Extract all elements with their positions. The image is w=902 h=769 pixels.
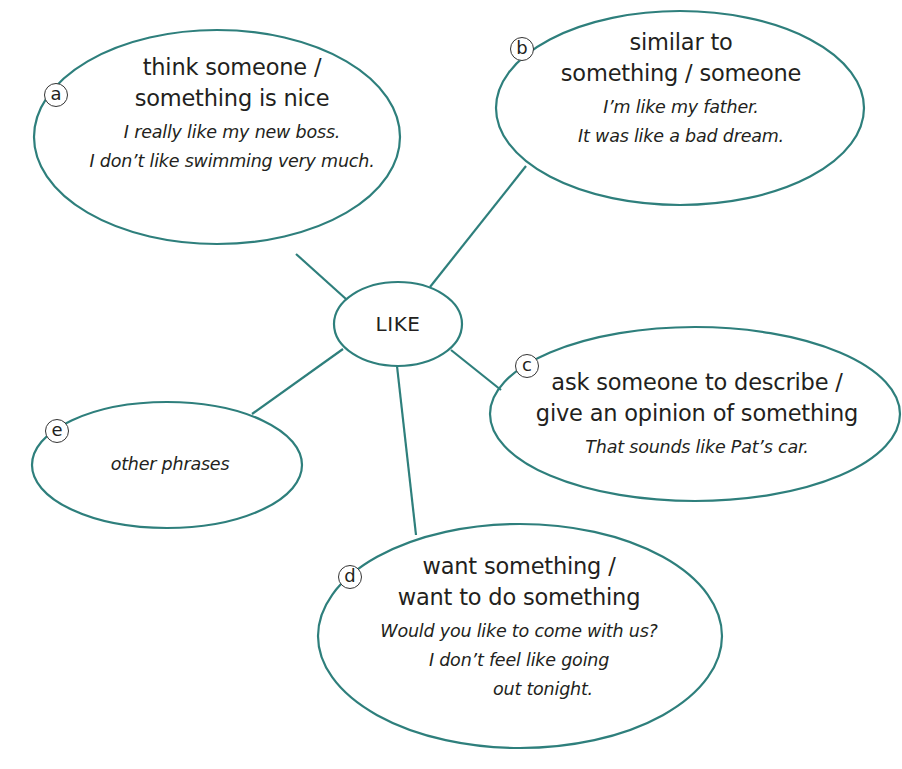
letter-badge-e: e bbox=[45, 419, 69, 443]
node-e: other phrases bbox=[111, 450, 230, 479]
node-c-example-1: That sounds like Pat’s car. bbox=[536, 433, 858, 462]
node-a-example-2: I don’t like swimming very much. bbox=[89, 147, 374, 176]
node-d-example-3: out tonight. bbox=[380, 675, 657, 704]
node-c-heading-1: ask someone to describe / bbox=[536, 367, 858, 398]
node-a-heading-2: something is nice bbox=[89, 83, 374, 114]
node-b-example-2: It was like a bad dream. bbox=[561, 122, 801, 151]
connector-b bbox=[430, 166, 526, 287]
connector-e bbox=[252, 349, 343, 414]
node-d: want something / want to do something Wo… bbox=[380, 551, 657, 704]
letter-badge-b: b bbox=[510, 37, 534, 61]
letter-badge-a: a bbox=[44, 83, 68, 107]
center-label: LIKE bbox=[376, 312, 421, 336]
node-c: ask someone to describe / give an opinio… bbox=[536, 367, 858, 462]
node-a-heading-1: think someone / bbox=[89, 52, 374, 83]
node-e-example-1: other phrases bbox=[111, 450, 230, 479]
letter-badge-d: d bbox=[338, 565, 362, 589]
node-d-heading-2: want to do something bbox=[380, 582, 657, 613]
node-a: think someone / something is nice I real… bbox=[89, 52, 374, 176]
node-b: similar to something / someone I’m like … bbox=[561, 27, 801, 151]
node-d-example-2: I don’t feel like going bbox=[380, 646, 657, 675]
node-d-example-1: Would you like to come with us? bbox=[380, 617, 657, 646]
connector-c bbox=[451, 350, 501, 390]
node-d-heading-1: want something / bbox=[380, 551, 657, 582]
node-b-heading-1: similar to bbox=[561, 27, 801, 58]
node-c-heading-2: give an opinion of something bbox=[536, 398, 858, 429]
connector-d bbox=[397, 366, 416, 535]
node-a-example-1: I really like my new boss. bbox=[89, 118, 374, 147]
node-b-heading-2: something / someone bbox=[561, 58, 801, 89]
connector-a bbox=[296, 254, 346, 299]
node-b-example-1: I’m like my father. bbox=[561, 93, 801, 122]
